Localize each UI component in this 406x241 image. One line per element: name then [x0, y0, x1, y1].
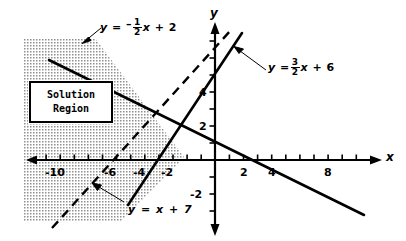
solution-region-label-box: Solution Region: [29, 81, 113, 123]
y-axis-bottom-arrow: [211, 224, 220, 236]
solution-region-line-1: Solution: [47, 88, 95, 102]
eq2-plus: +: [312, 61, 322, 74]
eq2-denominator: 2: [291, 68, 300, 77]
x-tick-label-neg10: -10: [45, 166, 65, 179]
x-tick-label-2: 2: [240, 166, 248, 179]
equation-label-line-1: y = –12x + 2: [100, 18, 177, 37]
eq2-variable: x: [301, 61, 309, 74]
eq3-text: y = x + 7: [128, 203, 193, 216]
eq1-numerator: 1: [133, 18, 142, 27]
eq2-fraction: 32: [291, 58, 300, 77]
eq2-constant: 6: [327, 61, 335, 74]
eq1-equals: =: [112, 21, 122, 34]
x-tick-label-neg6: -6: [104, 166, 116, 179]
eq1-plus: +: [155, 21, 165, 34]
eq2-lhs: y: [268, 61, 276, 74]
x-tick-label-8: 8: [324, 166, 332, 179]
eq2-equals: =: [280, 61, 290, 74]
eq1-denominator: 2: [133, 28, 142, 37]
y-tick-label-neg2: -2: [190, 188, 202, 201]
solution-region-line-2: Region: [53, 102, 89, 116]
x-tick-label-neg2: -2: [161, 166, 173, 179]
y-axis-label: y: [210, 6, 218, 20]
eq1-constant: 2: [169, 21, 177, 34]
eq1-lhs: y: [100, 21, 108, 34]
y-axis-top-arrow: [211, 22, 220, 34]
x-axis-right-arrow: [370, 156, 382, 165]
solution-region-shading: [24, 38, 184, 222]
eq1-variable: x: [143, 21, 151, 34]
eq1-sign: –: [126, 18, 132, 31]
y-axis: [211, 22, 220, 236]
eq1-fraction: 12: [133, 18, 142, 37]
y-tick-label-2: 2: [199, 120, 207, 133]
y-tick-label-4: 4: [199, 86, 207, 99]
equation-label-line-2: y =32x + 6: [268, 58, 335, 77]
eq2-numerator: 3: [291, 58, 300, 67]
x-axis-label: x: [386, 150, 394, 164]
x-tick-label-4: 4: [268, 166, 276, 179]
x-tick-label-neg4: -4: [133, 166, 145, 179]
coordinate-graph: Solution Region y = –12x + 2 y =32x + 6 …: [0, 0, 406, 241]
equation-label-line-3: y = x + 7: [128, 203, 193, 216]
